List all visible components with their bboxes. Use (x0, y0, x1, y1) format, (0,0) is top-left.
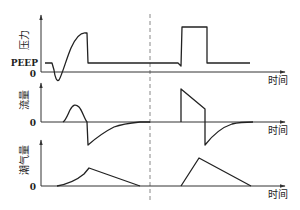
pressure-curve-left (45, 33, 150, 81)
flow-zero-label: 0 (30, 118, 36, 128)
flow-curve-left (63, 105, 150, 145)
volume-zero-label: 0 (30, 182, 36, 192)
volume-curve-left (57, 168, 140, 186)
flow-panel: 流量 0 时间 (18, 83, 288, 145)
tidal-volume-panel: 潮气量 0 时间 (18, 140, 288, 200)
ventilation-waveform-diagram: 压力 PEEP 0 时间 流量 0 时间 潮气量 0 时间 (0, 0, 300, 210)
volume-y-label: 潮气量 (18, 145, 30, 175)
pressure-zero-label: 0 (30, 69, 36, 79)
pressure-panel: 压力 PEEP 0 时间 (11, 15, 288, 86)
flow-y-label: 流量 (18, 90, 30, 110)
pressure-time-label: 时间 (268, 74, 288, 86)
pressure-curve-right (150, 27, 250, 66)
peep-label: PEEP (11, 58, 38, 68)
volume-curve-right (181, 158, 251, 186)
volume-time-label: 时间 (268, 188, 288, 200)
flow-time-label: 时间 (268, 124, 288, 136)
flow-curve-right (181, 89, 253, 145)
pressure-y-label: 压力 (18, 30, 30, 50)
